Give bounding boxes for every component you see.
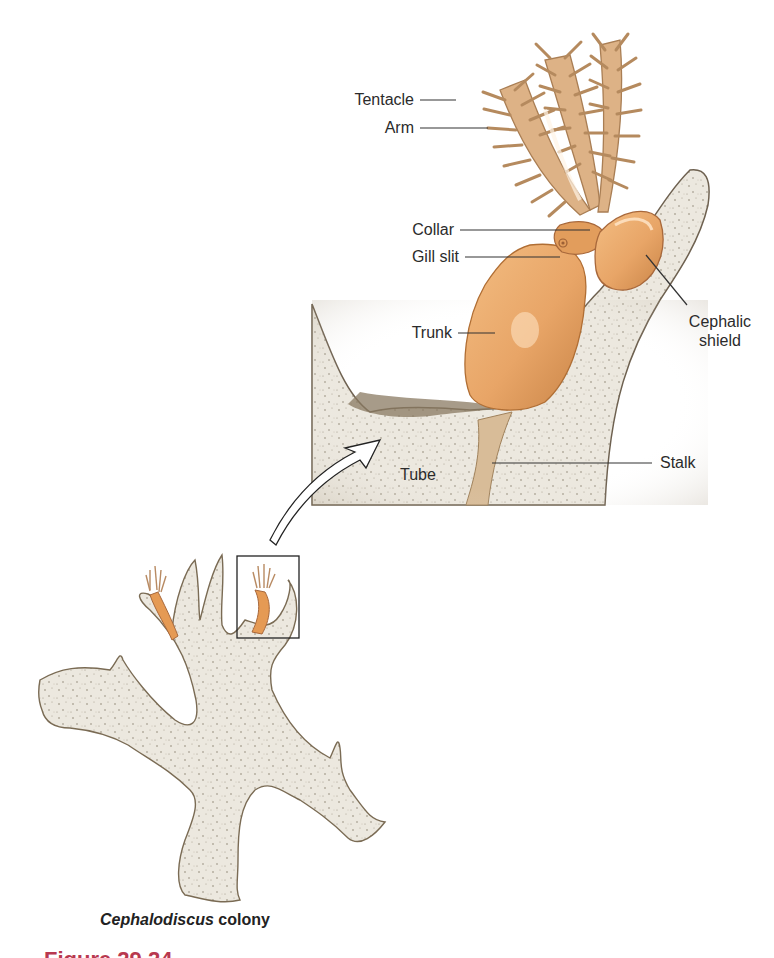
label-tentacle: Tentacle bbox=[320, 91, 414, 109]
label-cephalic-shield-line2: shield bbox=[680, 332, 760, 350]
label-collar: Collar bbox=[360, 221, 454, 239]
caption-species: Cephalodiscus bbox=[100, 911, 214, 928]
label-stalk: Stalk bbox=[660, 454, 696, 472]
illustration bbox=[0, 0, 774, 958]
figure-number-label: Figure 29.24 bbox=[44, 947, 172, 958]
label-tube: Tube bbox=[400, 466, 436, 484]
label-arm: Arm bbox=[320, 119, 414, 137]
caption-rest: colony bbox=[214, 911, 270, 928]
label-trunk: Trunk bbox=[360, 324, 452, 342]
label-gill-slit: Gill slit bbox=[360, 248, 459, 266]
tentacle-crown bbox=[483, 34, 641, 216]
label-cephalic-shield-line1: Cephalic bbox=[680, 313, 760, 331]
figure-caption: Cephalodiscus colony bbox=[100, 911, 270, 929]
cephalodiscus-figure: Tentacle Arm Collar Gill slit Trunk Ceph… bbox=[0, 0, 774, 958]
colony bbox=[39, 555, 385, 902]
